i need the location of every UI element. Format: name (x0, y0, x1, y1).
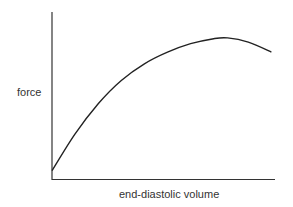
x-axis-label: end-diastolic volume (119, 188, 219, 200)
y-axis-label: force (17, 86, 41, 98)
data-curve (52, 38, 271, 171)
chart-canvas (0, 0, 293, 207)
